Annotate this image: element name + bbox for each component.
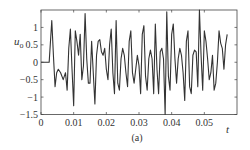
line-chart: 10.50−0.5−1−1.5 00.010.020.030.040.05 uo… (0, 0, 250, 150)
x-tick-label: 0.04 (163, 117, 181, 128)
y-tick-label: −0.5 (20, 74, 38, 85)
y-tick-label: 0.5 (26, 39, 39, 50)
x-tick-label: 0.01 (65, 117, 83, 128)
y-axis-label: uo (14, 35, 24, 50)
x-tick-label: 0 (39, 117, 44, 128)
y-tick-label: −1 (27, 92, 38, 103)
y-tick-label: 1 (33, 22, 38, 33)
series-line-0 (41, 10, 227, 115)
x-tick-label: 0.05 (196, 117, 214, 128)
x-axis-label: t (226, 123, 230, 135)
x-tick-label: 0.02 (98, 117, 116, 128)
figure-caption: (a) (131, 132, 142, 144)
x-tick-label: 0.03 (130, 117, 148, 128)
y-tick-label: 0 (33, 57, 38, 68)
plot-area (41, 10, 237, 115)
y-tick-label: −1.5 (20, 109, 38, 120)
